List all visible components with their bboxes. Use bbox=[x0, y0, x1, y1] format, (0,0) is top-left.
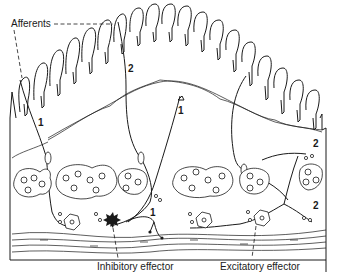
muscularis-mucosae bbox=[48, 81, 322, 138]
inhibitory-effector-neuron bbox=[103, 212, 121, 228]
myenteric-ganglion-right bbox=[173, 164, 323, 198]
neuron-number-2-right-bottom: 2 bbox=[313, 200, 319, 211]
neuron-number-1-mid: 1 bbox=[178, 105, 184, 116]
afferent-neuron-1-left bbox=[20, 80, 66, 226]
inhibitory-effector-label: Inhibitory effector bbox=[97, 261, 174, 272]
excitatory-effector-label: Excitatory effector bbox=[220, 261, 301, 272]
neuron-soma bbox=[45, 152, 51, 164]
enteric-nervous-system-diagram: Afferents 1 2 1 2 2 bbox=[0, 0, 340, 275]
neuron-number-1-bottom: 1 bbox=[150, 207, 156, 218]
muscle-layer bbox=[10, 230, 326, 260]
neuron-number-2-top: 2 bbox=[128, 63, 134, 74]
afferents-leader-left bbox=[14, 30, 22, 78]
interneuron-1-mid bbox=[128, 96, 180, 222]
afferent-neuron-2-top bbox=[110, 22, 152, 226]
neuron-number-1-left: 1 bbox=[38, 117, 44, 128]
myenteric-ganglion-left bbox=[14, 165, 148, 199]
afferents-label: Afferents bbox=[11, 18, 51, 29]
neuron-number-2-right-top: 2 bbox=[313, 138, 319, 149]
